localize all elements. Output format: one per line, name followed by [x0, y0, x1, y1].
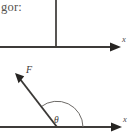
- force-label: F: [25, 64, 33, 75]
- top-x-axis-arrowhead: [110, 43, 121, 52]
- force-vector-line: [20, 79, 57, 127]
- figure-canvas: gor: x F: [0, 0, 134, 134]
- bottom-diagram-group: F θ x: [0, 64, 127, 132]
- angle-label: θ: [54, 115, 59, 125]
- top-diagram-group: x: [0, 0, 126, 52]
- bottom-x-axis-arrowhead: [111, 123, 122, 132]
- physics-diagram-svg: x F θ x: [0, 0, 134, 134]
- bottom-x-axis-label: x: [122, 114, 127, 124]
- top-x-axis-label: x: [121, 34, 126, 44]
